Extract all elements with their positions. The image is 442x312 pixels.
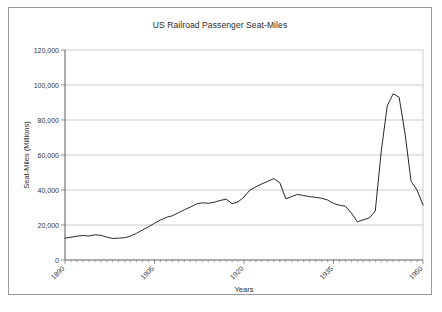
- x-axis-title: Years: [235, 285, 254, 294]
- gridlines-group: [65, 50, 423, 260]
- y-axis-title: Seat-Miles (Millions): [22, 121, 31, 189]
- y-tick-label: 60,000: [38, 152, 60, 159]
- y-tick-label: 0: [55, 257, 59, 264]
- x-tick-labels-group: 18901905192019351950: [50, 265, 424, 281]
- y-tick-label: 120,000: [34, 47, 59, 54]
- x-tick-label: 1905: [139, 265, 155, 281]
- data-series-line: [65, 94, 423, 239]
- x-minor-ticks-group: [65, 260, 423, 264]
- chart-plot-area: 020,00040,00060,00080,000100,000120,000 …: [9, 8, 433, 296]
- y-tick-label: 100,000: [34, 82, 59, 89]
- x-tick-label: 1920: [229, 265, 245, 281]
- y-ticks-group: [61, 50, 65, 260]
- x-tick-label: 1935: [318, 265, 334, 281]
- x-tick-label: 1890: [50, 265, 66, 281]
- y-tick-label: 80,000: [38, 117, 60, 124]
- y-tick-label: 40,000: [38, 187, 60, 194]
- y-tick-label: 20,000: [38, 222, 60, 229]
- y-tick-labels-group: 020,00040,00060,00080,000100,000120,000: [34, 47, 59, 264]
- x-tick-label: 1950: [408, 265, 424, 281]
- chart-frame: US Railroad Passenger Seat-Miles 020,000…: [8, 7, 432, 295]
